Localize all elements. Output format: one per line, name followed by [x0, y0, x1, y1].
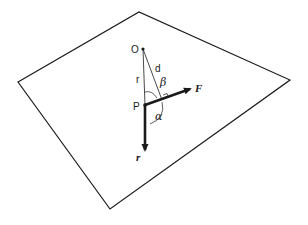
- diagram-canvas: O P r d β α F r: [0, 0, 308, 225]
- d-line: [143, 49, 162, 100]
- label-d: d: [155, 63, 161, 74]
- label-f-vector: F: [194, 82, 203, 94]
- label-beta: β: [159, 76, 166, 89]
- label-r-line: r: [136, 74, 140, 85]
- point-p: [143, 103, 147, 107]
- r-line: [143, 49, 145, 105]
- label-r-vector: r: [136, 151, 141, 163]
- label-o: O: [131, 44, 139, 55]
- beta-arc: [145, 92, 157, 98]
- label-p: P: [133, 101, 140, 112]
- label-alpha: α: [155, 110, 163, 123]
- plane: [18, 12, 290, 209]
- f-vector: [145, 89, 190, 105]
